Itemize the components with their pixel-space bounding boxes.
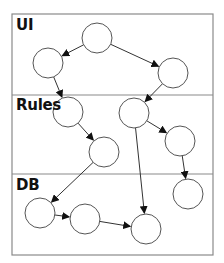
node-rules-d [165,126,195,156]
node-ui-left [33,48,63,78]
lane-label-db: DB [16,178,39,193]
swimlane-diagram [0,0,224,263]
edge-arrow-rules-b-to-db-a [52,162,94,202]
node-db-d [173,179,203,209]
node-db-c [131,214,161,244]
edge-arrow-ui-right-to-rules-c [145,84,162,102]
edge-arrow-db-a-to-db-b [55,215,69,217]
node-ui-right [158,58,188,88]
lane-label-rules: Rules [16,98,61,113]
node-db-b [70,204,100,234]
edge-arrow-ui-top-to-ui-right [111,44,159,66]
edge-arrow-rules-d-to-db-d [182,156,185,178]
edge-arrow-rules-c-to-rules-d [147,121,167,133]
edge-arrow-ui-left-to-rules-a [54,77,62,97]
node-ui-top [82,23,112,53]
edge-arrow-ui-top-to-ui-left [62,45,83,56]
nodes [25,23,203,244]
node-db-a [25,198,55,228]
edge-arrow-rules-a-to-rules-b [78,123,93,140]
node-rules-c [119,98,149,128]
edge-arrow-rules-c-to-db-c [136,128,145,213]
node-rules-b [89,137,119,167]
lane-label-ui: UI [16,18,33,33]
edge-arrow-db-b-to-db-c [100,221,130,226]
